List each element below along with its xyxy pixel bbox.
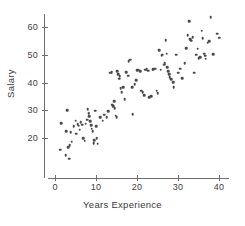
y-axis-tick-label: 20 (14, 133, 38, 143)
data-point (183, 62, 186, 65)
data-point (195, 53, 198, 56)
data-point (181, 77, 184, 80)
data-point (216, 32, 219, 35)
x-axis-tick (178, 175, 179, 181)
data-point (154, 67, 157, 70)
data-point (115, 116, 118, 119)
y-axis-tick (42, 83, 48, 84)
data-point (143, 94, 146, 97)
y-axis-title: Salary (5, 58, 16, 110)
data-point (121, 91, 124, 94)
data-point (218, 36, 221, 39)
data-point (83, 139, 86, 142)
data-point (165, 52, 168, 55)
data-point (84, 122, 87, 125)
data-point (208, 40, 211, 43)
plot-area: 2030405060 010203040 Years Experience Sa… (0, 0, 245, 226)
data-point (177, 71, 180, 74)
data-point (60, 122, 63, 125)
data-point (127, 75, 130, 78)
data-point (122, 86, 125, 89)
x-axis-tick-label: 0 (52, 182, 57, 192)
data-point (105, 116, 108, 119)
y-axis-tick-label: 60 (14, 22, 38, 32)
data-point (132, 113, 135, 116)
data-point (87, 108, 90, 111)
data-point (185, 47, 188, 50)
data-point (99, 116, 102, 119)
data-point (67, 146, 70, 149)
data-point (75, 132, 78, 135)
data-point (71, 140, 74, 143)
y-axis-tick (42, 55, 48, 56)
data-point (107, 110, 110, 113)
x-axis-tick-label: 10 (91, 182, 101, 192)
data-point (187, 34, 190, 37)
data-point (125, 71, 128, 74)
y-axis-tick (42, 138, 48, 139)
data-point (73, 125, 76, 128)
data-point (212, 53, 215, 56)
data-point (96, 142, 99, 145)
data-point (59, 148, 62, 151)
data-point (129, 58, 132, 61)
data-point (94, 110, 97, 113)
data-point (161, 53, 164, 56)
data-point (147, 70, 150, 73)
data-point (68, 144, 71, 147)
data-point (64, 154, 67, 157)
data-point (91, 130, 94, 133)
data-point (118, 75, 121, 78)
x-axis-tick-label: 30 (173, 182, 183, 192)
data-point (173, 86, 176, 89)
data-point (193, 71, 196, 74)
data-point (210, 16, 213, 19)
data-point (110, 71, 113, 74)
data-point (200, 30, 203, 33)
data-point (81, 123, 84, 126)
data-point (113, 100, 116, 103)
data-point (159, 68, 162, 71)
data-point (69, 131, 72, 134)
x-axis-line (48, 178, 229, 179)
data-point (139, 70, 142, 73)
data-point (123, 98, 126, 101)
data-point (135, 79, 138, 82)
data-point (191, 36, 194, 39)
data-point (131, 86, 134, 89)
x-axis-title: Years Experience (0, 199, 245, 210)
data-point (175, 53, 178, 56)
y-axis-tick-labels: 2030405060 (8, 0, 38, 226)
data-point (66, 109, 69, 112)
data-point (199, 56, 202, 59)
data-point (188, 20, 191, 23)
data-point (114, 107, 117, 110)
data-point (172, 81, 175, 84)
data-point (74, 120, 77, 123)
data-point (95, 125, 98, 128)
data-point (179, 67, 182, 70)
data-point (89, 120, 92, 123)
data-point (92, 142, 95, 145)
y-axis-line (44, 14, 45, 178)
x-axis-tick-label: 20 (132, 182, 142, 192)
x-axis-tick (55, 175, 56, 181)
y-axis-tick-label: 30 (14, 105, 38, 115)
data-point (77, 124, 80, 127)
data-point (164, 62, 167, 65)
y-axis-tick-label: 40 (14, 78, 38, 88)
data-point (93, 139, 96, 142)
data-point (96, 137, 99, 140)
data-point (86, 118, 89, 121)
data-point (156, 92, 159, 95)
data-point (150, 95, 153, 98)
data-point (87, 112, 90, 115)
data-point (190, 40, 193, 43)
data-point (205, 57, 208, 60)
data-point (68, 157, 71, 160)
x-axis-tick (219, 175, 220, 181)
data-point (90, 124, 93, 127)
x-axis-tick (137, 175, 138, 181)
y-axis-tick (42, 27, 48, 28)
data-point (133, 83, 136, 86)
